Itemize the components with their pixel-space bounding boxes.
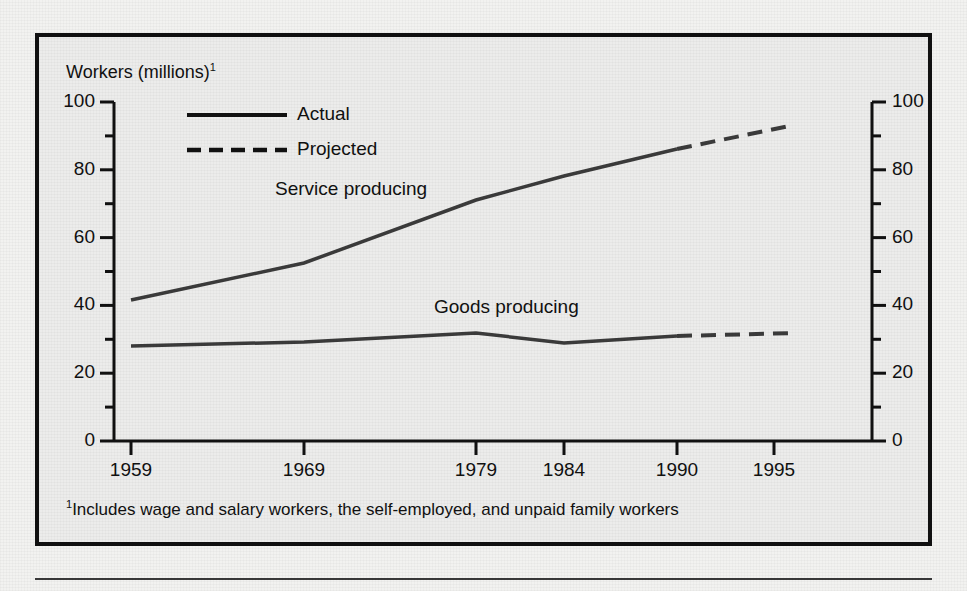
- footnote-text: Includes wage and salary workers, the se…: [72, 500, 679, 519]
- y-axis-right-label-0: 0: [892, 429, 903, 451]
- x-axis-label-1984: 1984: [543, 459, 585, 481]
- x-axis-label-1969: 1969: [283, 459, 325, 481]
- y-axis-left-label-40: 40: [39, 293, 95, 315]
- y-axis-left-label-20: 20: [39, 361, 95, 383]
- page-background: Workers (millions)1: [0, 0, 967, 591]
- y-axis-right-label-40: 40: [892, 293, 913, 315]
- y-axis-left-label-100: 100: [39, 90, 95, 112]
- page-bottom-rule: [35, 578, 932, 580]
- y-axis-right-label-60: 60: [892, 226, 913, 248]
- y-axis-left-label-80: 80: [39, 158, 95, 180]
- series-label-goods-producing: Goods producing: [434, 296, 579, 318]
- x-axis-label-1979: 1979: [455, 459, 497, 481]
- chart-footnote: 1Includes wage and salary workers, the s…: [66, 498, 679, 520]
- x-axis-label-1995: 1995: [753, 459, 795, 481]
- series-goods-producing-actual: [131, 333, 677, 346]
- x-axis-ticks: [131, 441, 774, 455]
- plot-area: 100 80 60 40 20 0 100 80 60 40 20 0 1959…: [39, 37, 936, 550]
- chart-figure: Workers (millions)1: [35, 33, 932, 546]
- legend-projected-label: Projected: [297, 138, 377, 160]
- x-axis-label-1990: 1990: [656, 459, 698, 481]
- y-axis-right-label-80: 80: [892, 158, 913, 180]
- y-axis-left-label-0: 0: [39, 429, 95, 451]
- legend-actual-label: Actual: [297, 103, 350, 125]
- x-axis-label-1959: 1959: [110, 459, 152, 481]
- series-service-producing-actual: [131, 149, 677, 300]
- series-service-producing-projected: [677, 125, 794, 149]
- y-axis-left-label-60: 60: [39, 226, 95, 248]
- y-axis-right-label-100: 100: [892, 90, 924, 112]
- y-axis-right-label-20: 20: [892, 361, 913, 383]
- series-goods-producing-projected: [677, 333, 794, 336]
- series-label-service-producing: Service producing: [275, 178, 427, 200]
